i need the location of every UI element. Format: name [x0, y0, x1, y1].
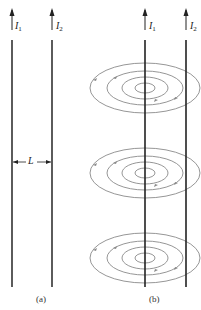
arrow-up-icon: [50, 8, 55, 16]
wire-1-current-label-b: I1: [149, 20, 156, 33]
wire-2-current-label-b: I2: [190, 20, 197, 33]
arrow-up-icon: [184, 8, 189, 16]
wire-1-current-label-a: I1: [15, 20, 22, 33]
wire-2-current-label-a: I2: [56, 20, 63, 33]
arrow-right-icon: [46, 160, 51, 164]
arrow-up-icon: [143, 8, 148, 16]
panel-b-wires: [143, 8, 189, 287]
panel-a-wires: [10, 8, 55, 287]
caption-b: (b): [149, 294, 160, 304]
caption-a: (a): [36, 294, 46, 304]
arrow-up-icon: [10, 8, 15, 16]
separation-label: L: [28, 155, 34, 166]
arrow-left-icon: [13, 160, 18, 164]
